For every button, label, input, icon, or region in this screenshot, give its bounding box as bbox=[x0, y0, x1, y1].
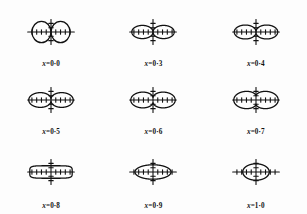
panel-label-value: 0·0 bbox=[50, 60, 60, 68]
panel-label-value: 0·3 bbox=[153, 60, 163, 68]
panel-label-value: 0·7 bbox=[255, 128, 265, 136]
polar-plot-0 bbox=[1, 4, 101, 60]
panel-label-value: 0·4 bbox=[255, 60, 265, 68]
figure-container: x=0·0 x=0·3 x=0·4 x=0·5 x=0·6 bbox=[0, 0, 307, 214]
plot-group bbox=[28, 20, 75, 45]
plot-group bbox=[233, 20, 280, 45]
panel-label-value: 0·5 bbox=[50, 128, 60, 136]
plot-group bbox=[130, 88, 177, 113]
plot-group bbox=[233, 160, 280, 185]
plot-group bbox=[130, 160, 177, 185]
plot-panel: x=0·0 bbox=[0, 0, 102, 70]
panel-grid: x=0·0 x=0·3 x=0·4 x=0·5 x=0·6 bbox=[0, 0, 307, 214]
polar-plot-1 bbox=[103, 4, 203, 60]
plot-panel: x=0·7 bbox=[205, 70, 307, 138]
plot-group bbox=[130, 20, 177, 45]
plot-panel: x=1·0 bbox=[205, 138, 307, 214]
plot-panel: x=0·4 bbox=[205, 0, 307, 70]
panel-label: x=1·0 bbox=[247, 203, 265, 210]
panel-label: x=0·3 bbox=[145, 61, 163, 68]
panel-label-value: 1·0 bbox=[255, 202, 265, 210]
polar-plot-6 bbox=[1, 142, 101, 202]
polar-plot-8 bbox=[206, 142, 306, 202]
plot-group bbox=[28, 160, 75, 185]
plot-group bbox=[233, 88, 280, 113]
plot-panel: x=0·6 bbox=[102, 70, 204, 138]
panel-label: x=0·5 bbox=[42, 129, 60, 136]
panel-label: x=0·4 bbox=[247, 61, 265, 68]
polar-plot-5 bbox=[206, 72, 306, 128]
panel-label: x=0·8 bbox=[42, 203, 60, 210]
panel-label: x=0·0 bbox=[42, 61, 60, 68]
polar-plot-7 bbox=[103, 142, 203, 202]
panel-label: x=0·9 bbox=[145, 203, 163, 210]
polar-plot-4 bbox=[103, 72, 203, 128]
plot-panel: x=0·3 bbox=[102, 0, 204, 70]
panel-label: x=0·6 bbox=[145, 129, 163, 136]
panel-label-value: 0·8 bbox=[50, 202, 60, 210]
plot-panel: x=0·8 bbox=[0, 138, 102, 214]
polar-plot-2 bbox=[206, 4, 306, 60]
panel-label-value: 0·6 bbox=[153, 128, 163, 136]
plot-group bbox=[28, 88, 75, 113]
panel-label: x=0·7 bbox=[247, 129, 265, 136]
panel-label-value: 0·9 bbox=[153, 202, 163, 210]
plot-panel: x=0·5 bbox=[0, 70, 102, 138]
polar-plot-3 bbox=[1, 72, 101, 128]
plot-panel: x=0·9 bbox=[102, 138, 204, 214]
